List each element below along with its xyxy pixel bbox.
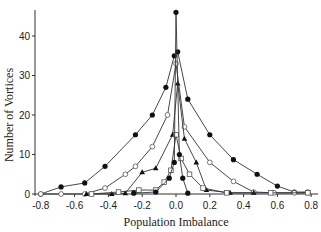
- x-axis-label: Population Imbalance: [124, 215, 229, 229]
- plot-area: [38, 10, 310, 197]
- x-tick-label: 0.8: [304, 200, 318, 211]
- line-chart: -0.8-0.6-0.4-0.20.00.20.40.60.8010203040…: [0, 0, 321, 232]
- x-tick-label: 0.2: [203, 200, 217, 211]
- y-tick-label: 0: [24, 189, 30, 200]
- x-tick-label: 0.6: [270, 200, 284, 211]
- x-tick-label: -0.4: [100, 200, 118, 211]
- x-tick-label: -0.2: [134, 200, 152, 211]
- y-tick-label: 20: [19, 110, 31, 121]
- x-tick-label: 0.0: [169, 200, 183, 211]
- x-tick-label: 0.4: [237, 200, 251, 211]
- y-tick-label: 10: [19, 149, 31, 160]
- x-tick-label: -0.6: [66, 200, 84, 211]
- y-tick-label: 40: [19, 31, 31, 42]
- x-tick-label: -0.8: [32, 200, 50, 211]
- y-tick-label: 30: [19, 70, 31, 81]
- y-axis-label: Number of Vortices: [2, 68, 16, 163]
